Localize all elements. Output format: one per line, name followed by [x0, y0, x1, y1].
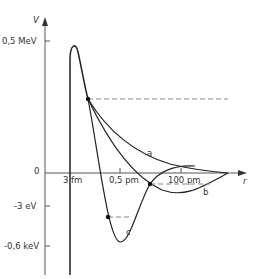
curve-label-b: b: [203, 188, 208, 197]
curve-label-c: c: [126, 228, 131, 237]
x-axis-label: r: [243, 177, 247, 186]
y-tick-zero: 0: [34, 167, 39, 176]
turning-point-c: [106, 215, 110, 219]
y-tick-05mev: 0,5 MeV: [2, 37, 37, 46]
x-tick-3fm: 3 fm: [63, 176, 82, 185]
y-tick-3ev: -3 eV: [14, 202, 36, 211]
turning-point-b: [148, 182, 152, 186]
potential-diagram: [0, 0, 258, 279]
y-axis-arrow: [42, 17, 48, 26]
curve-label-a: a: [147, 149, 152, 158]
y-tick-06kev: -0,6 keV: [4, 242, 39, 251]
turning-point-top: [86, 97, 90, 101]
y-axis-label: V: [33, 16, 39, 25]
x-tick-100pm: 100 pm: [168, 176, 201, 185]
x-tick-05pm: 0,5 pm: [109, 176, 139, 185]
curve-a: [88, 99, 228, 173]
core-potential: [70, 46, 88, 275]
